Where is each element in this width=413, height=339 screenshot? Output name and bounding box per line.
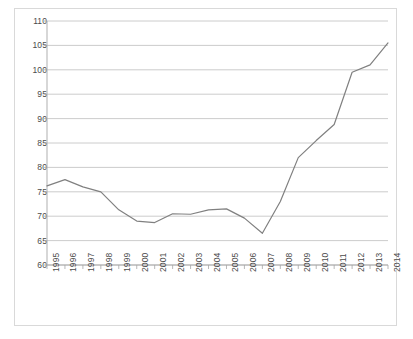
x-axis-tick-label: 1997 — [86, 253, 96, 272]
x-axis-tick-label: 2012 — [356, 253, 366, 272]
x-axis-tick-label: 2005 — [230, 253, 240, 272]
x-axis-tick-label: 2010 — [320, 253, 330, 272]
x-axis-tick-label: 2014 — [392, 253, 402, 272]
x-axis-tick-label: 1999 — [122, 253, 132, 272]
x-axis-tick-label: 2004 — [212, 253, 222, 272]
x-axis-tick-label: 1995 — [51, 253, 61, 272]
x-axis-tick-labels: 1995199619971998199920002001200220032004… — [15, 9, 396, 325]
x-axis-tick-label: 2008 — [284, 253, 294, 272]
x-axis-tick-label: 2009 — [302, 253, 312, 272]
x-axis-tick-label: 2003 — [194, 253, 204, 272]
x-axis-tick-label: 2011 — [338, 253, 348, 272]
x-axis-tick-label: 2001 — [158, 253, 168, 272]
plot-area: 6065707580859095100105110 19951996199719… — [15, 9, 396, 325]
x-axis-tick-label: 2000 — [140, 253, 150, 272]
x-axis-tick-label: 2006 — [248, 253, 258, 272]
x-axis-tick-label: 2007 — [266, 253, 276, 272]
chart-container: 6065707580859095100105110 19951996199719… — [14, 8, 397, 326]
x-axis-tick-label: 1998 — [104, 253, 114, 272]
x-axis-tick-label: 1996 — [68, 253, 78, 272]
x-axis-tick-label: 2002 — [176, 253, 186, 272]
x-axis-tick-label: 2013 — [374, 253, 384, 272]
